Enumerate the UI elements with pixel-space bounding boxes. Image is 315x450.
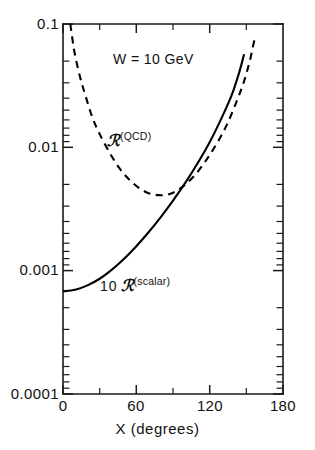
x-tick-label-2: 120	[192, 398, 228, 413]
script-r-glyph-qcd: ℛ	[107, 131, 120, 150]
y-tick-label-2: 0.001	[0, 262, 59, 277]
scalar-prefix: 10	[100, 278, 118, 294]
curve-label-r-qcd: ℛ(QCD)	[107, 131, 151, 149]
x-tick-label-0: 0	[45, 398, 81, 413]
x-axis-title: X (degrees)	[0, 421, 315, 436]
curve-10-r-scalar	[63, 55, 244, 291]
energy-annotation: W = 10 GeV	[113, 52, 194, 66]
curve-label-10-r-scalar: 10ℛ(scalar)	[100, 276, 170, 294]
script-r-glyph-scalar: ℛ	[121, 276, 134, 295]
axis-frame	[63, 24, 283, 394]
y-ticks-major	[63, 24, 283, 394]
y-tick-label-0: 0.1	[0, 16, 59, 31]
y-ticks-minor	[63, 61, 283, 388]
superscript-qcd: (QCD)	[120, 130, 151, 142]
x-tick-label-3: 180	[265, 398, 301, 413]
axis-left-bottom	[63, 24, 283, 394]
figure-container: 0.1 0.01 0.001 0.0001 0 60 120 180 X (de…	[0, 0, 315, 450]
plot-canvas	[0, 0, 315, 450]
x-tick-label-1: 60	[118, 398, 154, 413]
curve-r-qcd	[70, 24, 255, 195]
y-tick-label-1: 0.01	[0, 139, 59, 154]
superscript-scalar: (scalar)	[134, 275, 171, 287]
x-ticks	[63, 24, 283, 394]
